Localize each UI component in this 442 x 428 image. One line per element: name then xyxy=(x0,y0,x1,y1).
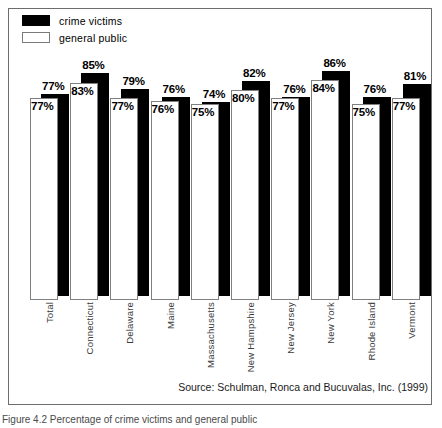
value-label-general-public: 83% xyxy=(71,85,93,97)
legend-label-crime-victims: crime victims xyxy=(59,15,122,27)
legend-swatch-crime-victims xyxy=(22,15,50,26)
legend-item-crime-victims: crime victims xyxy=(22,13,182,28)
bar-general-public xyxy=(151,101,179,300)
bar-general-public xyxy=(30,98,58,300)
value-label-general-public: 77% xyxy=(393,100,415,112)
value-label-crime-victims: 79% xyxy=(122,75,144,87)
value-label-crime-victims: 82% xyxy=(243,67,265,79)
bar-group: 76%76% xyxy=(151,55,191,300)
figure: crime victims general public 77%77%85%83… xyxy=(0,0,442,428)
x-axis-label: New Hampshire xyxy=(246,302,256,382)
bar-group: 79%77% xyxy=(110,55,150,300)
bar-general-public xyxy=(311,80,339,300)
x-axis-label: New Jersey xyxy=(286,302,296,382)
bar-general-public xyxy=(231,90,259,300)
x-axis-label: Maine xyxy=(166,302,176,382)
figure-caption: Figure 4.2 Percentage of crime victims a… xyxy=(2,414,432,428)
bar-group: 86%84% xyxy=(311,55,351,300)
value-label-general-public: 84% xyxy=(312,82,334,94)
x-axis-labels: TotalConnecticutDelawareMaineMassachuset… xyxy=(8,302,432,382)
bar-group: 76%75% xyxy=(352,55,392,300)
x-axis-label: Delaware xyxy=(125,302,135,382)
bar-general-public xyxy=(271,98,299,300)
x-axis-label: Rhode Island xyxy=(367,302,377,382)
chart-legend: crime victims general public xyxy=(22,13,182,47)
value-label-general-public: 77% xyxy=(272,100,294,112)
value-label-crime-victims: 85% xyxy=(82,59,104,71)
source-note: Source: Schulman, Ronca and Bucuvalas, I… xyxy=(178,381,428,393)
value-label-crime-victims: 86% xyxy=(323,57,345,69)
value-label-general-public: 77% xyxy=(31,100,53,112)
bar-group: 82%80% xyxy=(231,55,271,300)
value-label-general-public: 75% xyxy=(192,106,214,118)
bar-group: 74%75% xyxy=(191,55,231,300)
value-label-crime-victims: 76% xyxy=(283,83,305,95)
x-axis-label: Massachusetts xyxy=(206,302,216,382)
legend-label-general-public: general public xyxy=(59,32,127,44)
value-label-general-public: 77% xyxy=(111,100,133,112)
bar-group: 81%77% xyxy=(392,55,432,300)
value-label-crime-victims: 76% xyxy=(364,83,386,95)
bar-group: 76%77% xyxy=(271,55,311,300)
value-label-crime-victims: 77% xyxy=(42,80,64,92)
bar-general-public xyxy=(191,104,219,301)
bar-general-public xyxy=(110,98,138,300)
value-label-general-public: 75% xyxy=(353,106,375,118)
plot-area: 77%77%85%83%79%77%76%76%74%75%82%80%76%7… xyxy=(8,55,432,300)
bar-group: 85%83% xyxy=(70,55,110,300)
value-label-crime-victims: 74% xyxy=(203,88,225,100)
bar-general-public xyxy=(352,104,380,301)
legend-swatch-general-public xyxy=(22,32,50,43)
bar-general-public xyxy=(70,83,98,300)
value-label-crime-victims: 76% xyxy=(163,83,185,95)
x-axis-label: New York xyxy=(326,302,336,382)
legend-item-general-public: general public xyxy=(22,30,182,45)
x-axis-label: Total xyxy=(45,302,55,382)
x-axis-label: Connecticut xyxy=(85,302,95,382)
x-axis-label: Vermont xyxy=(407,302,417,382)
bar-general-public xyxy=(392,98,420,300)
value-label-general-public: 80% xyxy=(232,92,254,104)
value-label-crime-victims: 81% xyxy=(404,70,426,82)
bar-group: 77%77% xyxy=(30,55,70,300)
value-label-general-public: 76% xyxy=(152,103,174,115)
